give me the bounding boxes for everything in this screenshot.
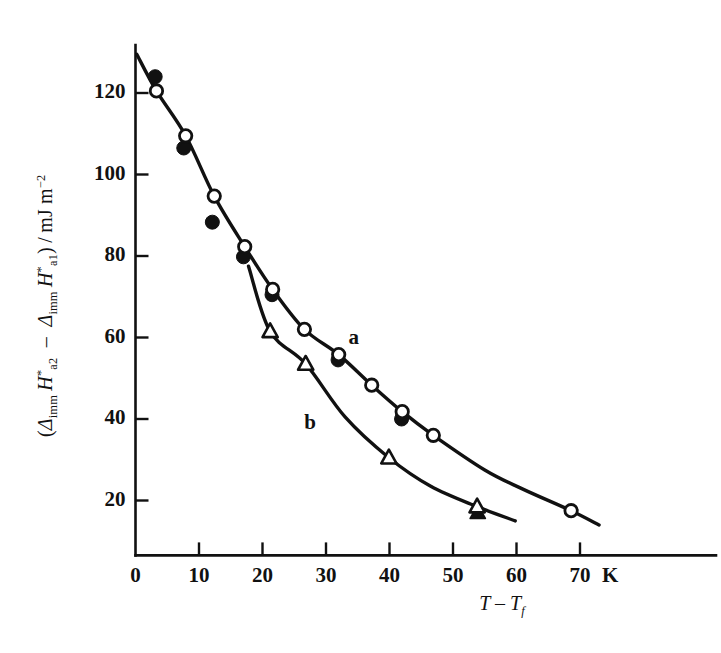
datapoint-b-0 <box>263 323 278 337</box>
datapoint-a-0 <box>150 85 162 97</box>
series-label-b: b <box>304 410 316 435</box>
y-tick-label-120: 120 <box>0 79 126 104</box>
y-tick-label-80: 80 <box>0 242 126 267</box>
axes-group <box>136 45 717 555</box>
markers-group <box>148 70 577 519</box>
x-axis-label: T – Tf <box>432 592 572 619</box>
datapoint-a-filled-0 <box>148 70 162 84</box>
y-tick-label-20: 20 <box>0 487 126 512</box>
x-axis-unit-kelvin: K <box>602 563 618 588</box>
datapoint-a-filled-2 <box>205 215 219 229</box>
y-tick-label-60: 60 <box>0 324 126 349</box>
y-axis-label-text: (Δimm H*a2 – Δimm H*a1) / mJ m−2 <box>34 175 56 438</box>
curves-group <box>137 54 599 525</box>
datapoint-a-3 <box>239 240 251 252</box>
datapoint-a-10 <box>565 504 577 516</box>
datapoint-a-1 <box>179 130 191 142</box>
y-tick-label-100: 100 <box>0 161 126 186</box>
figure-root: (Δimm H*a2 – Δimm H*a1) / mJ m−2 T – Tf … <box>0 0 721 653</box>
datapoint-a-5 <box>298 323 310 335</box>
y-tick-label-40: 40 <box>0 405 126 430</box>
datapoint-a-6 <box>333 348 345 360</box>
x-axis-label-text: T – Tf <box>479 592 524 614</box>
datapoint-a-4 <box>266 283 278 295</box>
series-label-a: a <box>349 325 360 350</box>
datapoint-a-8 <box>396 405 408 417</box>
datapoint-a-9 <box>427 429 439 441</box>
datapoint-a-7 <box>366 379 378 391</box>
y-axis-label: (Δimm H*a2 – Δimm H*a1) / mJ m−2 <box>33 91 61 521</box>
datapoint-a-2 <box>208 190 220 202</box>
curve-a-line <box>137 54 599 525</box>
